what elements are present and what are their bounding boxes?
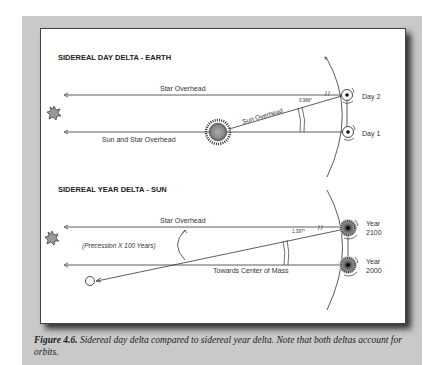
sun-overhead-label: Sun Overhead <box>241 107 284 125</box>
orbit-arc <box>327 190 343 310</box>
day1-label: Day 1 <box>362 130 380 138</box>
star-overhead-label: Star Overhead <box>160 85 206 92</box>
star-icon <box>45 231 59 245</box>
star-icon <box>47 106 61 120</box>
year2000-label-line1: Year <box>366 258 381 265</box>
sun-icon <box>339 256 358 276</box>
diagram: SIDEREAL DAY DELTA - EARTH Star Overhead… <box>0 0 443 365</box>
figure-caption: Figure 4.6. Sidereal day delta compared … <box>34 334 414 358</box>
caption-text: Sidereal day delta compared to sidereal … <box>34 335 402 357</box>
earth-icon <box>343 125 356 140</box>
orbit-arc <box>326 57 342 177</box>
angle-label-year: 1.397° <box>292 229 305 234</box>
panel2-title: SIDEREAL YEAR DELTA - SUN <box>58 185 167 194</box>
year2100-label-line2: 2100 <box>366 229 382 236</box>
angle-label-day: 0.986° <box>299 98 312 103</box>
earth-icon <box>342 88 355 103</box>
panel1-title: SIDEREAL DAY DELTA - EARTH <box>58 53 171 62</box>
day2-label: Day 2 <box>362 93 380 101</box>
year2000-label-line2: 2000 <box>366 267 382 274</box>
companion-body-icon <box>86 277 95 286</box>
precession-label: (Precession X 100 Years) <box>82 242 156 250</box>
sun-star-overhead-label: Sun and Star Overhead <box>102 136 176 143</box>
sun-icon <box>206 120 230 144</box>
star-overhead-label: Star Overhead <box>160 217 206 224</box>
precession-arc <box>178 230 186 260</box>
year2100-label-line1: Year <box>366 220 381 227</box>
caption-label: Figure 4.6. <box>34 335 78 345</box>
center-of-mass-label: Towards Center of Mass <box>213 267 289 274</box>
